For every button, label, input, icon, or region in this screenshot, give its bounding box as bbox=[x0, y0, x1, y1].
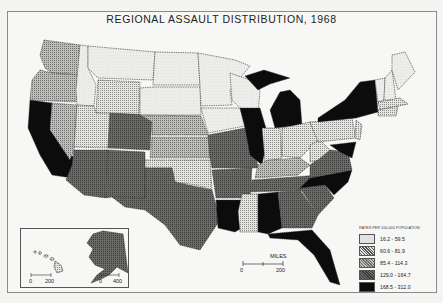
state-nm bbox=[106, 150, 145, 198]
inset-hawaii: 0 200 bbox=[20, 228, 75, 288]
legend-swatch-5 bbox=[359, 282, 375, 292]
legend-item: 60.6 - 81.9 bbox=[359, 245, 439, 256]
legend-swatch-3 bbox=[359, 258, 375, 268]
alaska-scale-end: 400 bbox=[113, 278, 122, 284]
state-co bbox=[108, 113, 152, 150]
scale-unit: MILES bbox=[270, 253, 287, 259]
state-ms bbox=[238, 194, 258, 232]
state-in bbox=[262, 128, 282, 162]
scale-start: 0 bbox=[240, 267, 243, 273]
legend-swatch-2 bbox=[359, 246, 375, 256]
legend-label: 129.0 - 164.7 bbox=[380, 272, 411, 278]
state-mi bbox=[270, 90, 302, 128]
legend-title: RATES PER 100,000 POPULATION bbox=[359, 226, 439, 230]
scale-end: 200 bbox=[276, 267, 285, 273]
legend-item: 16.2 - 59.5 bbox=[359, 233, 439, 244]
scale-bar bbox=[243, 261, 283, 266]
state-ks bbox=[150, 137, 210, 158]
state-me bbox=[392, 52, 415, 90]
hawaii-scale-start: 0 bbox=[29, 278, 32, 284]
alaska-scale-start: 0 bbox=[99, 278, 102, 284]
state-pa bbox=[310, 118, 356, 142]
state-or bbox=[30, 70, 80, 102]
state-wy bbox=[96, 80, 140, 115]
state-wa bbox=[40, 40, 80, 75]
legend-swatch-4 bbox=[359, 270, 375, 280]
state-ar bbox=[212, 168, 252, 198]
state-sd bbox=[140, 87, 201, 115]
hawaii-scale-end: 200 bbox=[45, 278, 54, 284]
legend-label: 60.6 - 81.9 bbox=[380, 248, 405, 254]
inset-alaska: 0 400 bbox=[73, 228, 129, 288]
state-nj bbox=[355, 120, 362, 140]
state-mt bbox=[88, 46, 155, 80]
legend-label: 168.5 - 312.0 bbox=[380, 284, 411, 290]
state-ny bbox=[318, 80, 378, 122]
legend-swatch-1 bbox=[359, 234, 375, 244]
state-ky bbox=[255, 158, 310, 178]
legend-item: 85.4 - 114.3 bbox=[359, 257, 439, 268]
legend-item: 168.5 - 312.0 bbox=[359, 281, 439, 292]
legend-label: 16.2 - 59.5 bbox=[380, 236, 405, 242]
legend-item: 129.0 - 164.7 bbox=[359, 269, 439, 280]
state-nd bbox=[153, 52, 200, 85]
legend-label: 85.4 - 114.3 bbox=[380, 260, 407, 266]
legend: RATES PER 100,000 POPULATION 16.2 - 59.5… bbox=[359, 226, 439, 293]
